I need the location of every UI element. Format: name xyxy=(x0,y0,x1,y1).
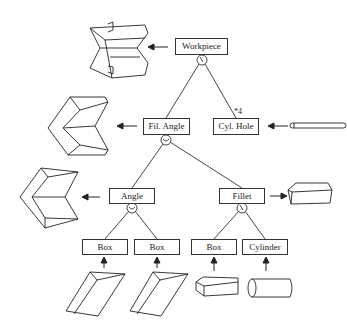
edge-workpiece-cylhole xyxy=(205,64,236,118)
box-node-3: Box xyxy=(191,239,237,255)
fil-angle-node: Fil. Angle xyxy=(143,118,190,135)
angle-part-image xyxy=(20,168,78,228)
edge-workpiece-filangle xyxy=(166,64,199,118)
workpiece-part-image xyxy=(90,22,148,78)
box1-part-image xyxy=(66,272,125,316)
edge-angle-box2 xyxy=(135,211,157,239)
diagram-canvas xyxy=(0,0,347,320)
cylinder-part-image xyxy=(248,279,292,297)
edge-filangle-fillet xyxy=(170,142,242,188)
cyl-hole-part-image xyxy=(290,123,346,128)
union-operator-icon xyxy=(161,135,171,145)
box3-part-image xyxy=(196,277,238,296)
fillet-part-image xyxy=(288,183,332,204)
edge-fillet-box3 xyxy=(214,211,239,239)
cylinder-node: Cylinder xyxy=(242,239,288,255)
box2-part-image xyxy=(130,272,188,316)
workpiece-node: Workpiece xyxy=(175,38,228,55)
box-node-1: Box xyxy=(82,239,128,255)
edge-angle-box1 xyxy=(105,211,129,239)
fil-angle-part-image xyxy=(48,97,108,155)
union-operator-icon xyxy=(127,203,137,213)
box-node-2: Box xyxy=(134,239,180,255)
multiplicity-label: *4 xyxy=(234,107,242,116)
edge-fillet-cylinder xyxy=(245,211,265,239)
angle-node: Angle xyxy=(109,188,155,204)
fillet-node: Fillet xyxy=(219,188,265,204)
edge-filangle-angle xyxy=(132,144,163,188)
cyl-hole-node: Cyl. Hole xyxy=(213,118,259,135)
